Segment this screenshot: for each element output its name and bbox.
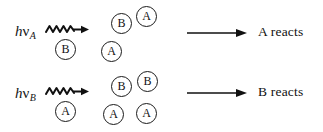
reaction-arrow-icon-b [187, 85, 249, 103]
planck-constant-symbol: h [15, 85, 23, 101]
photon-subscript-b: B [29, 92, 36, 103]
outcome-text-a: A reacts [258, 25, 303, 39]
mixture-molecule-b-3: A [103, 104, 124, 125]
molecule-label: B [61, 43, 69, 55]
molecule-label: A [142, 107, 151, 119]
molecule-label: B [143, 75, 151, 87]
photon-label-a: hνA [15, 24, 36, 41]
molecule-label: A [142, 10, 151, 22]
molecule-label: A [107, 45, 116, 57]
mixture-molecule-a-2: A [136, 6, 157, 27]
outcome-text-b: B reacts [258, 85, 303, 99]
mixture-molecule-b-1: B [111, 76, 132, 97]
photochemistry-diagram: hνA B B A A A reacts hνB [0, 0, 323, 132]
molecule-label: A [109, 108, 118, 120]
squiggle-arrow-icon-a [45, 23, 91, 41]
mixture-molecule-a-1: B [111, 13, 132, 34]
mixture-molecule-b-4: A [136, 103, 157, 124]
molecule-label: B [117, 80, 125, 92]
absorber-molecule-a: B [55, 39, 76, 60]
photon-subscript-a: A [29, 30, 36, 41]
mixture-molecule-a-3: A [101, 41, 122, 62]
planck-constant-symbol: h [15, 23, 23, 39]
squiggle-arrow-icon-b [45, 85, 91, 103]
photon-label-b: hνB [15, 86, 36, 103]
absorber-molecule-b: A [55, 101, 76, 122]
reaction-arrow-icon-a [187, 25, 249, 43]
mixture-molecule-b-2: B [137, 71, 158, 92]
molecule-label: A [61, 105, 70, 117]
molecule-label: B [117, 17, 125, 29]
